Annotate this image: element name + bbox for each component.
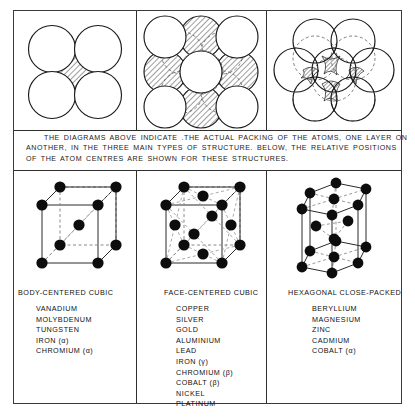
column-heading-fcc: FACE-CENTERED CUBIC — [146, 288, 274, 297]
label-column-hexagonal-close-packed: HEXAGONAL CLOSE-PACKED BERYLLIUM MAGNESI… — [274, 288, 402, 402]
crystal-structures-figure: THE DIAGRAMS ABOVE INDICATE .THE ACTUAL … — [0, 0, 415, 417]
metal-item: MAGNESIUM — [312, 315, 402, 326]
structure-labels-row: BODY-CENTERED CUBIC VANADIUM MOLYBDENUM … — [14, 288, 401, 402]
metal-item: ZINC — [312, 325, 402, 336]
caption-line-1: THE DIAGRAMS ABOVE INDICATE .THE ACTUAL … — [26, 133, 390, 143]
column-heading-hcp: HEXAGONAL CLOSE-PACKED — [274, 288, 402, 297]
metal-item: TUNGSTEN — [36, 325, 146, 336]
metal-item: BERYLLIUM — [312, 304, 402, 315]
hcp-lattice-diagram — [267, 171, 401, 285]
fcc-packing-diagram — [137, 11, 266, 129]
metal-item: NICKEL — [176, 389, 274, 400]
metal-item: IRON (γ) — [176, 357, 274, 368]
column-heading-bcc: BODY-CENTERED CUBIC — [18, 288, 146, 297]
metal-item: COBALT (α) — [312, 346, 402, 357]
caption-line-2: ANOTHER, IN THE THREE MAIN TYPES OF STRU… — [26, 143, 390, 153]
metal-item: IRON (α) — [36, 336, 146, 347]
figure-caption: THE DIAGRAMS ABOVE INDICATE .THE ACTUAL … — [26, 133, 390, 164]
metal-item: GOLD — [176, 325, 274, 336]
metal-item: SILVER — [176, 315, 274, 326]
metal-item: CHROMIUM (α) — [36, 346, 146, 357]
packing-diagrams-row — [14, 11, 401, 129]
label-column-face-centered-cubic: FACE-CENTERED CUBIC COPPER SILVER GOLD A… — [146, 288, 274, 402]
metal-item: LEAD — [176, 346, 274, 357]
bcc-lattice-diagram — [14, 171, 136, 285]
fcc-lattice-diagram — [137, 171, 266, 285]
metal-item: MOLYBDENUM — [36, 315, 146, 326]
metal-item: COBALT (β) — [176, 378, 274, 389]
hcp-packing-diagram — [267, 11, 401, 129]
metal-item: ALUMINIUM — [176, 336, 274, 347]
lattice-diagrams-row — [14, 171, 401, 285]
caption-line-3: OF THE ATOM CENTRES ARE SHOWN FOR THESE … — [26, 154, 390, 164]
label-column-body-centered-cubic: BODY-CENTERED CUBIC VANADIUM MOLYBDENUM … — [18, 288, 146, 402]
metal-item: CHROMIUM (β) — [176, 368, 274, 379]
bcc-packing-diagram — [14, 11, 136, 129]
metal-item: COPPER — [176, 304, 274, 315]
metal-item: PLATINUM — [176, 399, 274, 410]
metal-item: VANADIUM — [36, 304, 146, 315]
divider-horizontal-upper — [14, 130, 401, 131]
metal-item: CADMIUM — [312, 336, 402, 347]
